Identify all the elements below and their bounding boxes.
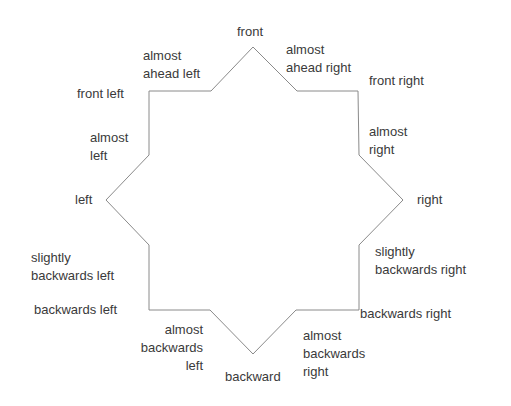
label-front-left: front left: [77, 86, 124, 102]
label-almost-backwards-left-line1: almost: [120, 322, 203, 338]
label-almost-backwards-left-line2: backwards: [120, 340, 203, 356]
label-front-right: front right: [369, 73, 424, 89]
label-slightly-backwards-right-line1: slightly: [375, 244, 415, 260]
label-front: front: [237, 24, 263, 40]
label-almost-right-line2: right: [369, 142, 394, 158]
label-almost-ahead-right-line2: ahead right: [286, 60, 351, 76]
label-slightly-backwards-left-line2: backwards left: [31, 268, 114, 284]
label-almost-ahead-left-line2: ahead left: [143, 66, 200, 82]
label-backwards-right: backwards right: [360, 306, 451, 322]
label-almost-left-line1: almost: [90, 130, 128, 146]
label-almost-right-line1: almost: [369, 124, 407, 140]
label-almost-left-line2: left: [90, 148, 107, 164]
label-slightly-backwards-left-line1: slightly: [31, 250, 71, 266]
label-backward: backward: [225, 369, 281, 385]
label-backwards-left: backwards left: [34, 302, 117, 318]
label-almost-ahead-right-line1: almost: [286, 42, 324, 58]
label-left: left: [75, 192, 92, 208]
label-almost-backwards-left-line3: left: [120, 358, 203, 374]
label-almost-ahead-left-line1: almost: [143, 48, 181, 64]
label-almost-backwards-right-line2: backwards: [303, 346, 365, 362]
label-almost-backwards-right-line1: almost: [303, 328, 341, 344]
label-slightly-backwards-right-line2: backwards right: [375, 262, 466, 278]
label-right: right: [417, 192, 442, 208]
label-almost-backwards-right-line3: right: [303, 364, 328, 380]
